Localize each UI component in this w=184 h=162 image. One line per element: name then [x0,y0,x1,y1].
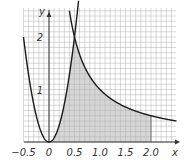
y-tick-label: 1 [37,85,43,96]
x-axis-label: x [171,147,178,158]
area-chart: −0.500.51.01.52.012 x y [0,0,184,162]
y-tick-label: 2 [37,32,43,43]
grid-lines [24,8,177,142]
x-axis-arrow-icon [175,140,180,145]
x-tick-label: 0.5 [67,147,83,158]
x-tick-label: −0.5 [11,147,35,158]
x-tick-label: 2.0 [143,147,159,158]
y-axis-label: y [38,6,46,17]
x-tick-label: 0 [46,147,52,158]
x-tick-label: 1.0 [92,147,108,158]
x-tick-label: 1.5 [118,147,134,158]
y-axis-arrow-icon [47,12,52,17]
